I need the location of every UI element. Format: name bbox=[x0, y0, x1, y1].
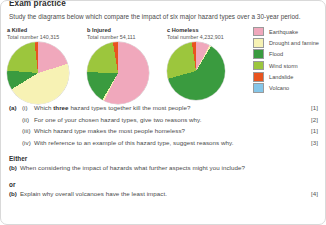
intro-text: Study the diagrams below which compare t… bbox=[9, 13, 301, 20]
question-a-iv-roman: (iv) bbox=[22, 139, 34, 146]
legend-item: Earthquake bbox=[253, 26, 325, 37]
legend-item-label: Volcano bbox=[269, 85, 289, 91]
chart-c-pie bbox=[167, 42, 225, 100]
legend-item: Volcano bbox=[253, 82, 325, 93]
exam-practice-page: Exam practice Study the diagrams below w… bbox=[0, 0, 326, 225]
question-b-either-text: When considering the impact of hazards w… bbox=[20, 164, 245, 171]
question-a-i-text: Which three hazard types together kill t… bbox=[34, 104, 191, 111]
question-a-i-roman: (i) bbox=[22, 104, 34, 111]
question-a-ii-text: For one of your chosen hazard types, giv… bbox=[34, 116, 202, 123]
chart-b-heading: b Injured bbox=[87, 27, 149, 33]
chart-b-pie bbox=[87, 42, 149, 104]
chart-b-pie-wrap bbox=[87, 42, 149, 104]
legend-swatch-icon bbox=[253, 83, 264, 93]
hazard-legend: EarthquakeDrought and famineFloodWind st… bbox=[253, 26, 325, 94]
legend-item: Flood bbox=[253, 49, 325, 60]
question-a-iv-marks: [3] bbox=[311, 139, 318, 146]
chart-b-injured: b Injured Total number 54,111 bbox=[87, 27, 149, 104]
legend-swatch-icon bbox=[253, 38, 264, 48]
legend-item-label: Earthquake bbox=[269, 29, 298, 35]
chart-a-pie-wrap bbox=[7, 42, 69, 104]
chart-c-homeless: c Homeless Total number 4,232,901 bbox=[167, 27, 225, 100]
question-a-i-marks: [1] bbox=[311, 104, 318, 111]
question-a-iii: (iii) Which hazard type makes the most p… bbox=[1, 127, 326, 139]
legend-item: Drought and famine bbox=[253, 37, 325, 48]
question-a-iii-marks: [1] bbox=[311, 127, 318, 134]
legend-swatch-icon bbox=[253, 49, 264, 59]
legend-item-label: Wind storm bbox=[269, 63, 298, 69]
legend-item: Landslide bbox=[253, 71, 325, 82]
question-a-label: (a) bbox=[9, 104, 22, 111]
chart-a-killed: a Killed Total number 140,315 bbox=[7, 27, 69, 104]
chart-a-heading: a Killed bbox=[7, 27, 69, 33]
chart-a-total: Total number 140,315 bbox=[7, 34, 69, 40]
questions-block: (a) (i) Which three hazard types togethe… bbox=[1, 104, 326, 201]
legend-item-label: Landslide bbox=[269, 74, 293, 80]
chart-c-heading: c Homeless bbox=[167, 27, 225, 33]
page-title: Exam practice bbox=[9, 0, 66, 8]
chart-a-pie bbox=[7, 42, 69, 104]
question-b-or-marks: [4] bbox=[311, 190, 318, 197]
chart-b-total: Total number 54,111 bbox=[87, 34, 149, 40]
question-a-iii-text: Which hazard type makes the most people … bbox=[34, 127, 185, 134]
legend-swatch-icon bbox=[253, 61, 264, 71]
question-a-ii-roman: (ii) bbox=[22, 116, 34, 123]
question-b-either: (b) When considering the impact of hazar… bbox=[1, 164, 326, 176]
legend-swatch-icon bbox=[253, 27, 264, 37]
question-b-or-text: Explain why overall volcanoes have the l… bbox=[20, 190, 167, 197]
legend-swatch-icon bbox=[253, 72, 264, 82]
question-a-i: (a) (i) Which three hazard types togethe… bbox=[1, 104, 326, 116]
question-b-or: (b) Explain why overall volcanoes have t… bbox=[1, 190, 326, 202]
either-label: Either bbox=[1, 155, 326, 162]
or-label: or bbox=[1, 181, 326, 188]
chart-c-pie-wrap bbox=[167, 42, 225, 100]
legend-item-label: Drought and famine bbox=[269, 40, 319, 46]
question-a-iv: (iv) With reference to an example of thi… bbox=[1, 139, 326, 151]
question-b-or-label: (b) bbox=[9, 190, 17, 197]
question-a-ii: (ii) For one of your chosen hazard types… bbox=[1, 116, 326, 128]
question-a-iv-text: With reference to an example of this haz… bbox=[34, 139, 233, 146]
question-a-iii-roman: (iii) bbox=[22, 127, 34, 134]
chart-c-total: Total number 4,232,901 bbox=[167, 34, 225, 40]
question-a-ii-marks: [2] bbox=[311, 116, 318, 123]
legend-item-label: Flood bbox=[269, 51, 283, 57]
legend-item: Wind storm bbox=[253, 60, 325, 71]
question-b-either-label: (b) bbox=[9, 164, 17, 171]
